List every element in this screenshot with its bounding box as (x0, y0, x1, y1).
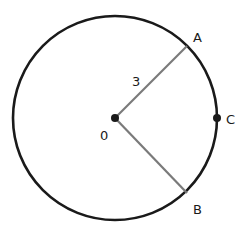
radius-oa (115, 46, 187, 118)
label-center: 0 (100, 128, 108, 143)
radius-ob (115, 118, 187, 193)
center-point (111, 114, 119, 122)
label-radius: 3 (132, 74, 140, 89)
point-c (213, 114, 221, 122)
circle-diagram: A B C 0 3 (0, 0, 246, 237)
label-b: B (193, 202, 202, 217)
label-a: A (193, 30, 202, 45)
label-c: C (226, 112, 235, 127)
